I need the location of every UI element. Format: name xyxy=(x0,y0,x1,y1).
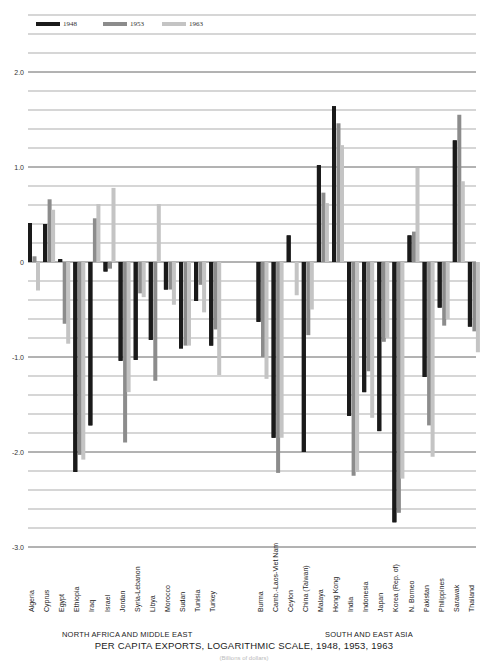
bar-1963 xyxy=(96,204,100,262)
x-tick-label: India xyxy=(347,597,354,612)
bar-1948 xyxy=(28,223,32,262)
bar-1948 xyxy=(149,262,153,340)
bar-1953 xyxy=(184,262,188,346)
bar-1948 xyxy=(209,262,213,346)
bar-1963 xyxy=(187,262,191,346)
bar-1963 xyxy=(310,262,314,310)
x-tick-label: Japan xyxy=(377,593,385,612)
bar-1963 xyxy=(461,181,465,262)
bar-1953 xyxy=(337,123,341,262)
bar-1963 xyxy=(295,262,299,295)
x-tick-label: Sudan xyxy=(179,592,186,612)
bar-1948 xyxy=(164,262,168,290)
x-tick-label: Jordan xyxy=(119,590,126,612)
bar-1953 xyxy=(108,262,112,269)
bar-1948 xyxy=(347,262,351,416)
bar-1948 xyxy=(392,262,396,522)
bar-1963 xyxy=(202,262,206,312)
y-tick-label: -3.0 xyxy=(12,544,24,551)
bar-1963 xyxy=(476,262,480,352)
bar-1963 xyxy=(280,262,284,438)
bar-1953 xyxy=(214,262,218,329)
legend-swatch-1948 xyxy=(36,22,60,26)
bar-1953 xyxy=(352,262,356,476)
bar-1963 xyxy=(36,262,40,291)
x-tick-label: Hong Kong xyxy=(332,577,340,612)
x-tick-label: Philippines xyxy=(438,578,446,612)
bar-1953 xyxy=(33,256,37,262)
x-tick-label: Turkey xyxy=(209,590,217,612)
bar-1953 xyxy=(48,199,52,262)
bar-1953 xyxy=(63,262,67,324)
bar-1963 xyxy=(400,262,404,479)
bar-1948 xyxy=(468,262,472,327)
x-tick-label: Pakistan xyxy=(423,585,430,612)
bar-1948 xyxy=(179,262,183,348)
bar-1953 xyxy=(261,262,265,357)
x-tick-label: Burma xyxy=(257,591,264,612)
bar-1963 xyxy=(446,262,450,319)
bar-1953 xyxy=(321,193,325,262)
bar-1963 xyxy=(385,262,389,338)
bar-1953 xyxy=(442,262,446,326)
y-tick-label: 1.0 xyxy=(14,164,24,171)
bar-1953 xyxy=(199,262,203,285)
bar-1948 xyxy=(119,262,123,361)
bar-1953 xyxy=(397,262,401,513)
bar-1948 xyxy=(58,259,62,262)
x-tick-label: Algeria xyxy=(28,590,36,612)
legend-label-1948: 1948 xyxy=(63,20,77,28)
bar-1948 xyxy=(272,262,276,438)
x-tick-label: Ethiopia xyxy=(73,587,81,612)
x-tick-label: Thailand xyxy=(468,585,475,612)
bar-1953 xyxy=(168,262,172,290)
bar-1963 xyxy=(66,262,70,344)
bar-chart: 2.01.00-1.0-2.0-3.0 AlgeriaCyprusEgyptEt… xyxy=(0,0,488,663)
bar-1953 xyxy=(276,262,280,473)
bar-1963 xyxy=(81,262,85,460)
x-tick-label: Indonesia xyxy=(362,582,369,612)
bar-1948 xyxy=(453,140,457,262)
bar-1963 xyxy=(416,168,420,262)
group-label-south-east-asia: SOUTH AND EAST ASIA xyxy=(325,630,413,639)
bar-1963 xyxy=(340,145,344,262)
legend-label-1963: 1963 xyxy=(189,20,203,28)
bar-1948 xyxy=(104,262,108,272)
y-tick-label: -2.0 xyxy=(12,449,24,456)
x-tick-label: Syria-Lebanon xyxy=(134,566,142,612)
bar-1953 xyxy=(472,262,476,331)
chart-footnote: (Billions of dollars) xyxy=(0,655,488,661)
x-tick-label: Libya xyxy=(149,595,157,612)
legend-item-1953: 1953 xyxy=(103,20,144,28)
legend-swatch-1963 xyxy=(162,22,186,26)
gridlines xyxy=(28,15,476,547)
x-tick-label: Egypt xyxy=(58,594,66,612)
bar-1953 xyxy=(427,262,431,425)
bar-1948 xyxy=(423,262,427,377)
bar-1948 xyxy=(43,224,47,262)
x-tick-label: Ceylon xyxy=(287,590,295,612)
bar-1948 xyxy=(438,262,442,308)
bar-1948 xyxy=(73,262,77,472)
legend-item-1948: 1948 xyxy=(36,20,77,28)
bar-1948 xyxy=(408,235,412,262)
bar-1963 xyxy=(217,262,221,375)
legend: 1948 1953 1963 xyxy=(36,20,203,28)
legend-label-1953: 1953 xyxy=(130,20,144,28)
legend-item-1963: 1963 xyxy=(162,20,203,28)
x-tick-label: Morocco xyxy=(164,585,171,612)
x-tick-label: Iraq xyxy=(88,600,96,612)
bar-1963 xyxy=(370,262,374,418)
bar-1963 xyxy=(325,203,329,262)
bar-1953 xyxy=(153,262,157,381)
x-tick-label: Cyprus xyxy=(43,589,51,612)
y-axis-ticks: 2.01.00-1.0-2.0-3.0 xyxy=(12,69,24,551)
x-axis-labels: AlgeriaCyprusEgyptEthiopiaIraqIsraelJord… xyxy=(28,543,475,612)
bar-1953 xyxy=(123,262,127,443)
x-tick-label: China (Taiwan) xyxy=(302,565,310,612)
chart-title: PER CAPITA EXPORTS, LOGARITHMIC SCALE, 1… xyxy=(0,640,488,651)
x-tick-label: Israel xyxy=(104,594,111,612)
bar-1953 xyxy=(457,115,461,262)
bar-1948 xyxy=(377,262,381,431)
bar-1953 xyxy=(306,262,310,335)
